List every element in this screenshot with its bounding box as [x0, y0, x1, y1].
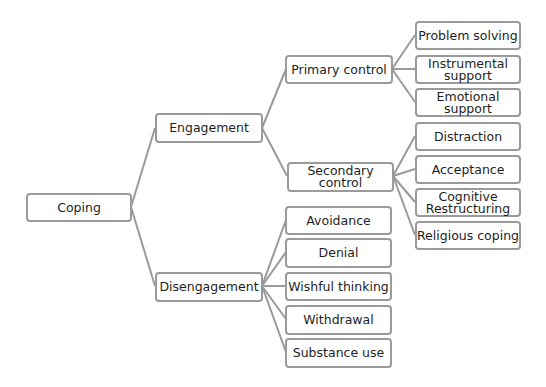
node-cognitive-restructuring: Cognitive Restructuring [415, 188, 521, 217]
node-label: Engagement [169, 122, 249, 134]
node-label: Coping [57, 202, 101, 214]
node-substance-use: Substance use [285, 338, 392, 368]
node-emotional-support: Emotional support [415, 88, 521, 117]
node-label: Problem solving [418, 30, 517, 42]
node-label: Substance use [293, 347, 384, 359]
node-label: Withdrawal [303, 314, 373, 326]
node-acceptance: Acceptance [415, 155, 521, 184]
node-engagement: Engagement [155, 113, 263, 143]
node-instrumental-support: Instrumental support [415, 55, 521, 84]
node-primary-control: Primary control [285, 55, 393, 84]
node-avoidance: Avoidance [285, 206, 392, 235]
node-label: Distraction [434, 131, 502, 143]
node-label: Instrumental support [428, 58, 508, 82]
node-label: Disengagement [159, 281, 258, 293]
node-religious-coping: Religious coping [415, 221, 521, 250]
node-problem-solving: Problem solving [415, 21, 521, 50]
node-withdrawal: Withdrawal [285, 305, 392, 335]
node-label: Religious coping [417, 230, 519, 242]
node-wishful-thinking: Wishful thinking [285, 272, 392, 301]
node-coping: Coping [26, 193, 132, 222]
node-denial: Denial [285, 238, 392, 268]
node-secondary-control: Secondary control [287, 162, 394, 192]
node-label: Cognitive Restructuring [421, 191, 515, 215]
node-label: Acceptance [432, 164, 505, 176]
node-label: Denial [319, 247, 359, 259]
node-label: Wishful thinking [288, 281, 389, 293]
node-label: Avoidance [306, 215, 370, 227]
node-distraction: Distraction [415, 122, 521, 151]
node-disengagement: Disengagement [155, 272, 263, 302]
node-label: Emotional support [435, 91, 501, 115]
node-label: Secondary control [303, 165, 378, 189]
node-label: Primary control [291, 64, 387, 76]
